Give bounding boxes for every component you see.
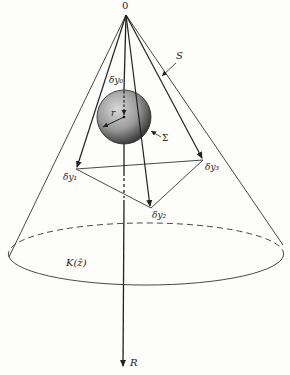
delta-triangle bbox=[76, 160, 203, 208]
label-delta-y2: δy₂ bbox=[152, 211, 166, 220]
axis-R bbox=[123, 144, 124, 366]
label-sigma: Σ bbox=[162, 134, 168, 143]
cone-diagram: 0 S δy₀ r Σ δy₁ δy₃ δy₂ K(ẑ) R bbox=[0, 0, 290, 375]
label-axis-R: R bbox=[130, 358, 138, 368]
label-apex-0: 0 bbox=[122, 1, 128, 11]
pointer-S bbox=[162, 63, 176, 76]
label-delta-y3: δy₃ bbox=[205, 163, 219, 172]
label-S: S bbox=[176, 51, 183, 61]
diagram-drawing bbox=[0, 0, 290, 375]
label-r: r bbox=[111, 109, 115, 118]
label-base-K: K(ẑ) bbox=[66, 258, 87, 268]
label-delta-y1: δy₁ bbox=[63, 173, 77, 182]
cone-edge-right bbox=[126, 15, 283, 245]
ray-delta-y0 bbox=[124, 15, 126, 90]
sphere-center-dot bbox=[123, 116, 126, 119]
label-delta-y0: δy₀ bbox=[109, 76, 123, 85]
pointer-sigma bbox=[151, 131, 161, 137]
cone-base-ellipse bbox=[8, 223, 283, 285]
